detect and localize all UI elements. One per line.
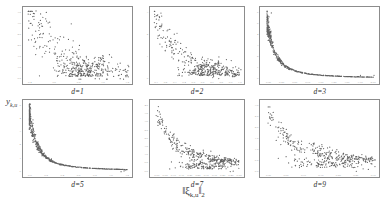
scatter-points [22, 99, 133, 178]
y-tick-label: 0.0 [255, 170, 259, 173]
x-tick-label: 0.30 [371, 174, 376, 177]
x-tick-label: 0.1 [154, 81, 158, 84]
panel-title: d=3 [259, 87, 380, 96]
scatter-panel-d7: 0.000.050.100.150.200.250.300.350.400.45… [149, 99, 245, 178]
y-tick-label: 2.5 [144, 129, 148, 132]
x-tick-label: 0.40 [220, 174, 225, 177]
scatter-points [149, 99, 245, 178]
x-tick-label: 0.4 [28, 81, 32, 84]
x-axis-norm-order: 2 [201, 191, 205, 199]
scatter-points [259, 6, 380, 85]
x-tick-label: 0.8 [77, 81, 81, 84]
y-tick-labels: 3.53.02.52.01.51.00.5 [14, 11, 21, 80]
x-tick-label: 0.00 [154, 174, 159, 177]
x-tick-label: 1.00 [318, 81, 323, 84]
x-tick-label: 0.2 [164, 81, 168, 84]
y-tick-label: 4 [20, 117, 21, 120]
x-tick-label: 0.8 [219, 81, 223, 84]
scatter-figure: yk,u 0.40.60.81.01.23.53.02.52.01.51.00.… [0, 0, 387, 208]
y-tick-label: 0 [20, 170, 21, 173]
x-tick-label: 1.50 [344, 81, 349, 84]
y-tick-label: 1.5 [255, 137, 259, 140]
x-tick-label: 1.0 [101, 81, 105, 84]
y-tick-label: 4 [257, 33, 258, 36]
x-tick-label: 0.05 [163, 174, 168, 177]
scatter-panel-d9: 0.000.050.100.150.200.250.303.02.52.01.5… [259, 99, 380, 178]
x-tick-label: 0.6 [201, 81, 205, 84]
panel-title: d=2 [149, 87, 245, 96]
y-tick-label: 5 [20, 104, 21, 107]
x-tick-label: 0.00 [266, 81, 271, 84]
y-tick-label: 2.0 [17, 44, 21, 47]
panel-grid: 0.40.60.81.01.23.53.02.52.01.51.00.5d=10… [22, 6, 380, 180]
y-tick-label: 1 [20, 157, 21, 160]
x-tick-label: 0.15 [179, 174, 184, 177]
x-tick-labels: 0.000.050.100.150.200.250.30 [259, 174, 380, 177]
y-tick-label: 3 [257, 44, 258, 47]
y-tick-label: 1.0 [17, 66, 21, 69]
y-tick-label: 2.0 [255, 126, 259, 129]
x-tick-label: 0.6 [52, 81, 56, 84]
x-tick-label: 0.9 [229, 81, 233, 84]
x-tick-labels: 0.000.050.100.150.200.250.300.350.400.45… [149, 174, 245, 177]
scatter-panel-d1: 0.40.60.81.01.23.53.02.52.01.51.00.5d=1 [22, 6, 133, 85]
x-tick-label: 0.4 [61, 174, 65, 177]
y-tick-label: 1.5 [144, 145, 148, 148]
y-tick-labels: 6543210 [251, 11, 258, 80]
x-axis-label-subscript: k,u [190, 191, 199, 199]
y-tick-label: 6 [257, 11, 258, 14]
x-tick-label: 0.00 [266, 174, 271, 177]
x-tick-label: 0.2 [44, 174, 48, 177]
x-tick-label: 0.20 [336, 174, 341, 177]
y-tick-label: 2.5 [17, 33, 21, 36]
x-tick-label: 0.10 [171, 174, 176, 177]
y-tick-label: 0.5 [144, 161, 148, 164]
y-tick-label: 1.5 [17, 55, 21, 58]
x-tick-label: 1.2 [125, 174, 129, 177]
x-tick-label: 0.25 [353, 174, 358, 177]
x-tick-label: 0.25 [279, 81, 284, 84]
y-tick-label: 1.0 [255, 148, 259, 151]
x-tick-label: 0.7 [210, 81, 214, 84]
y-tick-label: 3 [147, 11, 148, 14]
x-tick-label: 0.0 [28, 174, 32, 177]
y-tick-labels: 3210 [141, 11, 148, 80]
scatter-points [22, 6, 133, 85]
y-tick-labels: 543210 [14, 104, 21, 173]
x-tick-label: 0.45 [228, 174, 233, 177]
x-tick-label: 0.3 [173, 81, 177, 84]
y-tick-label: 0 [147, 77, 148, 80]
y-tick-label: 5 [257, 22, 258, 25]
x-tick-labels: 0.10.20.30.40.50.60.70.80.91.0 [149, 81, 245, 84]
scatter-panel-d2: 0.10.20.30.40.50.60.70.80.91.03210d=2 [149, 6, 245, 85]
y-tick-label: 1.0 [144, 153, 148, 156]
x-tick-label: 0.50 [237, 174, 242, 177]
y-tick-label: 3.0 [255, 104, 259, 107]
x-axis-label: ‖ξk,u‖2 [0, 184, 387, 199]
x-tick-label: 0.20 [187, 174, 192, 177]
y-tick-label: 3.0 [144, 120, 148, 123]
scatter-panel-d3: 0.000.250.500.751.001.251.501.752.006543… [259, 6, 380, 85]
x-tick-label: 0.10 [301, 174, 306, 177]
x-tick-label: 1.0 [109, 174, 113, 177]
x-tick-label: 0.30 [204, 174, 209, 177]
y-tick-labels: 4.03.53.02.52.01.51.00.50.0 [141, 104, 148, 173]
x-tick-labels: 0.00.20.40.60.81.01.2 [22, 174, 133, 177]
y-tick-label: 3.5 [17, 11, 21, 14]
x-tick-label: 0.6 [77, 174, 81, 177]
x-tick-label: 1.0 [238, 81, 242, 84]
x-tick-label: 0.25 [195, 174, 200, 177]
y-tick-label: 3 [20, 130, 21, 133]
y-tick-labels: 3.02.52.01.51.00.50.0 [251, 104, 258, 173]
y-tick-label: 2.5 [255, 115, 259, 118]
y-tick-label: 2 [147, 33, 148, 36]
x-tick-label: 0.50 [292, 81, 297, 84]
scatter-panel-d5: 0.00.20.40.60.81.01.2543210d=5 [22, 99, 133, 178]
y-tick-label: 1 [257, 66, 258, 69]
x-tick-label: 0.75 [305, 81, 310, 84]
x-tick-label: 1.2 [125, 81, 129, 84]
y-tick-label: 3.5 [144, 112, 148, 115]
x-tick-label: 1.25 [331, 81, 336, 84]
y-tick-label: 0 [257, 77, 258, 80]
x-tick-label: 0.5 [192, 81, 196, 84]
